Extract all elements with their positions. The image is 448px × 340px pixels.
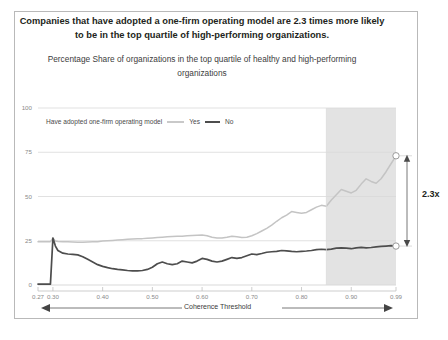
- x-axis-arrow-left: [41, 304, 50, 312]
- x-axis-arrow-right: [384, 304, 393, 312]
- y-axis-tick-label: 0: [14, 281, 32, 288]
- x-axis-tick-label: 0.90: [339, 293, 363, 300]
- chart-plot-area: [0, 0, 448, 340]
- y-axis-tick-label: 25: [14, 237, 32, 244]
- y-axis-tick-label: 50: [14, 193, 32, 200]
- x-axis-tick-label: 0.50: [140, 293, 164, 300]
- x-axis-tick-label: 0.30: [41, 293, 65, 300]
- x-axis-tick-label: 0.80: [290, 293, 314, 300]
- x-axis-title: Coherence Threshold: [184, 303, 251, 310]
- x-axis-tick-label: 0.60: [190, 293, 214, 300]
- x-axis-tick-label: 0.40: [91, 293, 115, 300]
- endpoint-marker-yes: [393, 153, 399, 159]
- y-axis-tick-label: 100: [14, 104, 32, 111]
- endpoint-marker-no: [393, 243, 399, 249]
- y-axis-tick-label: 75: [14, 148, 32, 155]
- x-axis-tick-label: 0.70: [240, 293, 264, 300]
- x-axis-tick-label: 0.99: [384, 293, 408, 300]
